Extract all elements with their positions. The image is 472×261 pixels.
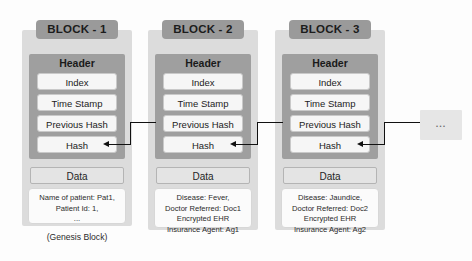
data-line: Insurance Agent: Ag1 [157, 225, 249, 236]
connector-arrowhead-block3 [357, 141, 363, 147]
block-title-1: BLOCK - 1 [36, 20, 118, 39]
data-body-3: Disease: Jaundice, Doctor Referred: Doc2… [281, 188, 379, 228]
field-previous-hash-2: Previous Hash [163, 115, 243, 132]
header-label-3: Header [282, 57, 378, 69]
data-label-3: Data [283, 167, 377, 184]
data-line: Disease: Fever, [157, 193, 249, 204]
data-label-1: Data [30, 167, 124, 184]
data-line: Name of patient: Pat1, [31, 193, 123, 204]
data-body-2: Disease: Fever, Doctor Referred: Doc1 En… [154, 188, 252, 228]
data-line: Patient Id: 1, [31, 204, 123, 215]
connector-2-to-1-vertical [130, 122, 131, 144]
field-previous-hash-1: Previous Hash [37, 115, 117, 132]
data-line: Doctor Referred: Doc1 [157, 204, 249, 215]
continuation-box: ... [420, 110, 462, 140]
data-line: Encrypted EHR [284, 214, 376, 225]
header-label-1: Header [29, 57, 125, 69]
data-line: ... [31, 214, 123, 225]
connector-arrowhead-block1 [103, 141, 109, 147]
block-title-2: BLOCK - 2 [162, 20, 244, 39]
continuation-label: ... [420, 119, 462, 129]
field-index-1: Index [37, 73, 117, 90]
field-index-3: Index [290, 73, 370, 90]
connector-2-to-1-lower [109, 144, 131, 145]
genesis-block-caption: (Genesis Block) [22, 232, 132, 242]
field-timestamp-1: Time Stamp [37, 94, 117, 111]
connector-next-to-3-upper [384, 122, 420, 123]
data-line: Doctor Referred: Doc2 [284, 204, 376, 215]
connector-arrowhead-block2 [230, 141, 236, 147]
connector-3-to-2-lower [236, 144, 258, 145]
field-index-2: Index [163, 73, 243, 90]
field-timestamp-2: Time Stamp [163, 94, 243, 111]
data-line: Disease: Jaundice, [284, 193, 376, 204]
connector-2-to-1-upper [130, 122, 156, 123]
data-line: Encrypted EHR [157, 214, 249, 225]
connector-3-to-2-upper [257, 122, 283, 123]
connector-next-to-3-lower [363, 144, 385, 145]
blockchain-diagram: BLOCK - 1 Header Index Time Stamp Previo… [0, 0, 472, 261]
block-title-3: BLOCK - 3 [289, 20, 371, 39]
data-label-2: Data [156, 167, 250, 184]
field-previous-hash-3: Previous Hash [290, 115, 370, 132]
data-body-1: Name of patient: Pat1, Patient Id: 1, ..… [28, 188, 126, 224]
header-label-2: Header [155, 57, 251, 69]
connector-next-to-3-vertical [384, 122, 385, 144]
data-line: Insurance Agent: Ag2 [284, 225, 376, 236]
field-timestamp-3: Time Stamp [290, 94, 370, 111]
connector-3-to-2-vertical [257, 122, 258, 144]
